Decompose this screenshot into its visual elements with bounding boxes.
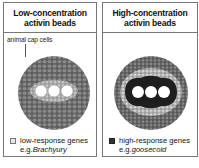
low-response-swatch <box>10 138 16 144</box>
activin-bead <box>61 85 73 97</box>
panel-title: High-concentration activin beads <box>103 3 197 33</box>
animal-cap-tissue-illustration <box>17 55 91 131</box>
title-line-2: activin beads <box>24 18 76 28</box>
high-response-swatch <box>109 138 115 144</box>
panel-title: Low-concentration activin beads <box>4 3 96 33</box>
legend-label: low-response genes <box>20 136 88 145</box>
low-concentration-panel: Low-concentration activin beads animal c… <box>3 2 97 157</box>
legend: high-response genes e.g.goosecoid <box>109 136 190 154</box>
title-line-2: activin beads <box>124 18 176 28</box>
activin-bead <box>132 86 144 98</box>
example-gene: Brachyury <box>33 145 67 154</box>
example-prefix: e.g. <box>119 145 132 154</box>
activin-bead <box>35 85 47 97</box>
activin-bead <box>158 86 170 98</box>
title-line-1: Low-concentration <box>13 8 86 18</box>
legend-example: e.g.goosecoid <box>109 145 190 154</box>
example-prefix: e.g. <box>20 145 33 154</box>
legend-example: e.g.Brachyury <box>10 145 88 154</box>
legend-label: high-response genes <box>119 136 190 145</box>
activin-bead <box>145 86 157 98</box>
legend: low-response genes e.g.Brachyury <box>10 136 88 154</box>
title-line-1: High-concentration <box>112 8 187 18</box>
example-gene: goosecoid <box>132 145 167 154</box>
animal-cap-cells-label: animal cap cells <box>7 36 52 43</box>
animal-cap-tissue-illustration <box>113 55 189 131</box>
high-concentration-panel: High-concentration activin beads high-re… <box>102 2 198 157</box>
activin-bead <box>48 85 60 97</box>
